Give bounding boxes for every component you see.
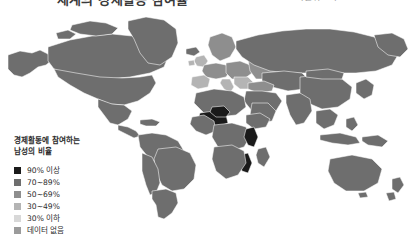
legend-item-70-89: 70~89% [12,176,128,188]
region-scandinavia [208,33,236,61]
legend-swatch-no-data [14,227,21,234]
legend-item-50-69: 50~69% [12,188,128,200]
region-india [286,93,312,125]
region-iceland [186,47,200,56]
legend-swatch-30-49 [14,203,21,210]
legend-label-30-under: 30% 이하 [27,214,60,223]
legend-swatch-50-69 [14,191,21,198]
figure-title-strip: 세계의 경제활동 참여율 (단위: %) [0,0,414,7]
region-indonesia [320,133,360,145]
world-map-figure: 세계의 경제활동 참여율 (단위: %) [0,0,414,248]
region-new-zealand-south [386,192,396,201]
legend-swatch-90-plus [14,167,21,174]
region-brazil [154,147,196,191]
legend-label-90-plus: 90% 이상 [27,166,60,175]
region-philippines [346,117,358,131]
legend-swatch-30-under [14,215,21,222]
legend-title: 경제활동에 참여하는 남성의 비율 [14,135,128,157]
legend-item-90-plus: 90% 이상 [12,164,128,176]
region-southeast-asia [316,109,338,129]
map-canvas: 경제활동에 참여하는 남성의 비율 90% 이상 70~89% 50~69% 3… [0,7,414,248]
legend-item-30-under: 30% 이하 [12,212,128,224]
region-iberia [191,75,210,89]
region-southern-cone [152,189,178,219]
region-canada-arctic-islands [70,21,118,36]
legend-title-line-1: 경제활동에 참여하는 [14,135,128,146]
legend-label-30-49: 30~49% [27,202,60,211]
title-unit-note: (단위: %) [300,0,337,3]
region-tasmania [358,192,368,198]
legend-swatch-70-89 [14,179,21,186]
legend-title-line-2: 남성의 비율 [14,146,128,157]
map-legend: 경제활동에 참여하는 남성의 비율 90% 이상 70~89% 50~69% 3… [12,135,128,236]
legend-label-50-69: 50~69% [27,190,60,199]
region-korea-japan [356,79,374,99]
legend-item-no-data: 데이터 없음 [12,224,128,236]
region-new-guinea [362,135,388,147]
region-madagascar [256,147,270,167]
legend-item-30-49: 30~49% [12,200,128,212]
region-southern-africa [212,145,246,179]
region-ireland [188,60,195,66]
region-alaska [8,50,52,77]
page-title: 세계의 경제활동 참여율 [57,0,188,7]
region-new-zealand [392,177,404,193]
region-caribbean [140,119,160,126]
legend-label-no-data: 데이터 없음 [27,226,64,235]
region-central-europe [226,61,252,79]
region-australia [328,155,382,191]
legend-label-70-89: 70~89% [27,178,60,187]
region-russia [236,29,398,73]
